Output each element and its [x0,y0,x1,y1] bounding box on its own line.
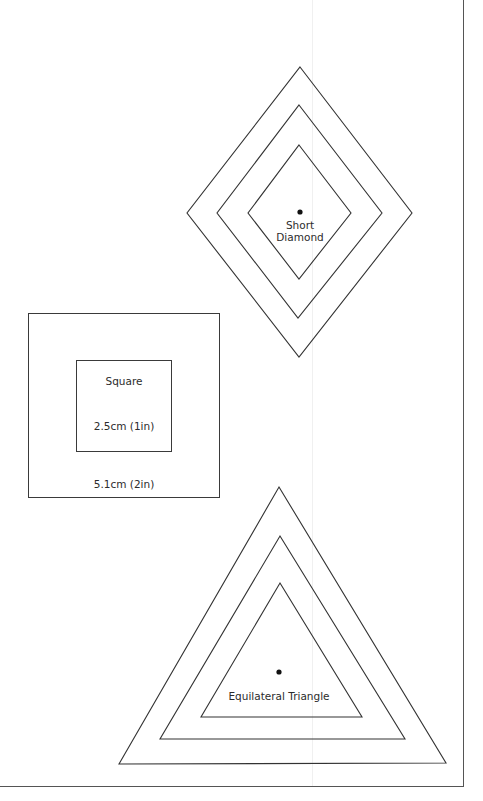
diamond-label-line2: Diamond [276,231,323,243]
triangle-label: Equilateral Triangle [228,690,329,702]
square-inner-size: 2.5cm (1in) [94,420,154,432]
diamond-label-line1: Short [286,219,314,231]
triangle-outer [119,487,446,764]
square-outer-size: 5.1cm (2in) [94,478,154,490]
triangle-middle [160,536,405,739]
diamond-center-dot [297,209,302,214]
square-title: Square [106,375,143,387]
triangle-center-dot [276,669,281,674]
square-inner [76,360,172,452]
